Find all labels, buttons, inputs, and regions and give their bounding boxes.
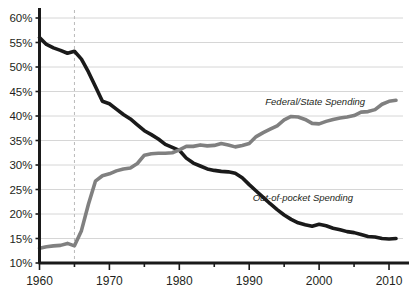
y-tick-label-15: 15% — [9, 233, 32, 245]
y-tick-label-30: 30% — [9, 159, 32, 171]
x-tick-label-1980: 1980 — [166, 274, 193, 288]
y-tick-label-10: 10% — [9, 257, 32, 269]
y-tick-label-50: 50% — [9, 61, 32, 73]
y-tick-label-25: 25% — [9, 184, 32, 196]
chart-background — [0, 0, 412, 304]
x-tick-label-2000: 2000 — [306, 274, 333, 288]
y-tick-label-55: 55% — [9, 37, 32, 49]
x-tick-label-1970: 1970 — [96, 274, 123, 288]
x-tick-label-1960: 1960 — [26, 274, 53, 288]
y-tick-label-35: 35% — [9, 135, 32, 147]
y-tick-label-60: 60% — [9, 12, 32, 24]
x-tick-label-1990: 1990 — [236, 274, 263, 288]
y-tick-label-40: 40% — [9, 110, 32, 122]
chart-container: 60%55%50%45%40%35%30%25%20%15%10% 196019… — [0, 0, 412, 304]
y-tick-label-20: 20% — [9, 208, 32, 220]
series-label-2: Federal/State Spending — [265, 96, 366, 107]
spending-share-line-chart: 60%55%50%45%40%35%30%25%20%15%10% 196019… — [0, 0, 412, 304]
series-label-1: Out-of-pocket Spending — [253, 192, 354, 203]
x-tick-label-2010: 2010 — [376, 274, 403, 288]
y-tick-label-45: 45% — [9, 86, 32, 98]
